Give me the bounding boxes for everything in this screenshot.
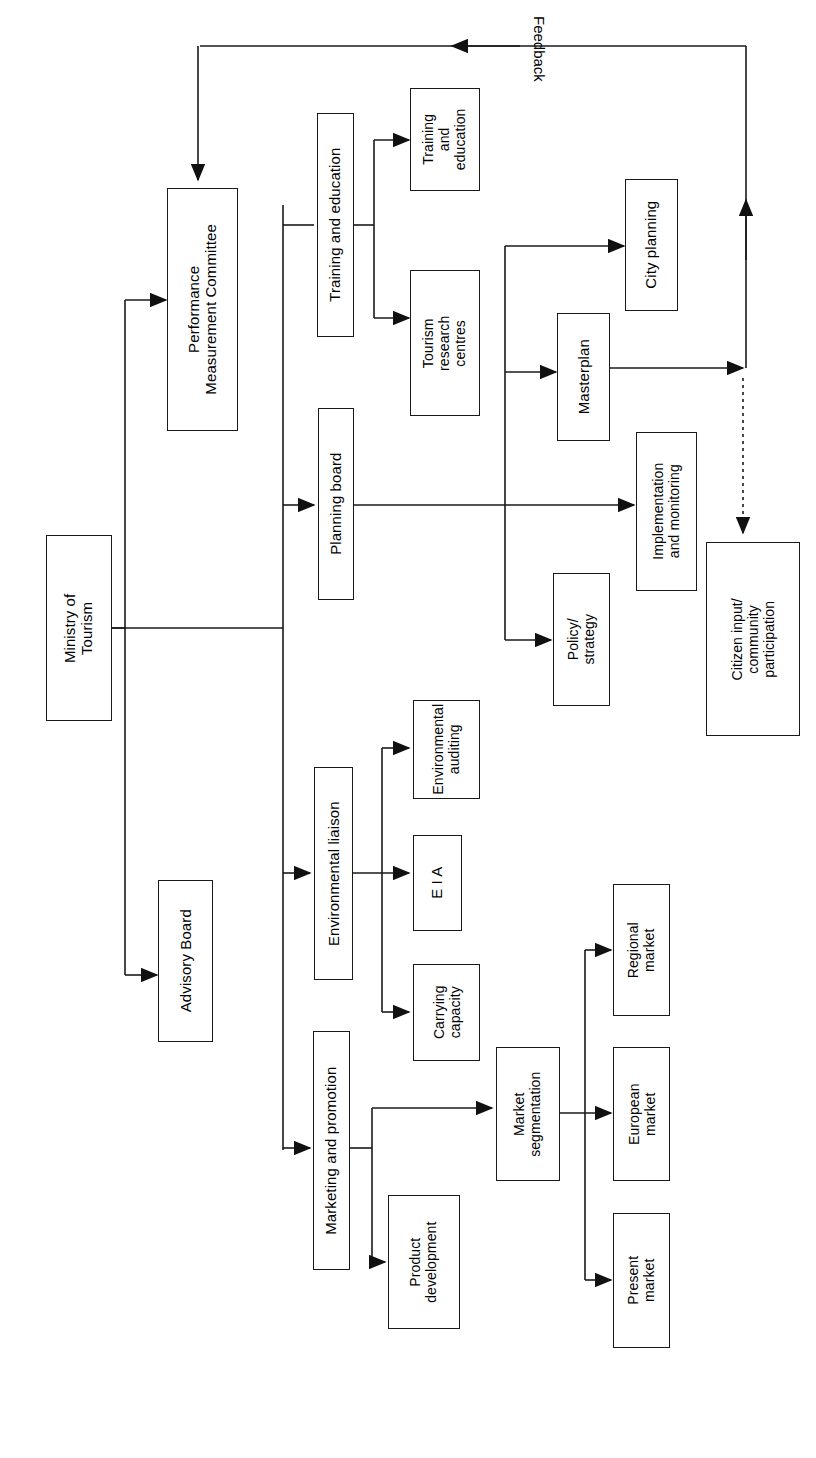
node-market-segmentation[interactable]: Market segmentation xyxy=(496,1047,560,1181)
node-regional-market[interactable]: Regional market xyxy=(613,884,670,1016)
node-label: Tourism research centres xyxy=(421,315,470,370)
node-policy-strategy[interactable]: Policy/ strategy xyxy=(553,573,610,706)
node-marketing-and-promotion[interactable]: Marketing and promotion xyxy=(313,1031,350,1270)
node-product-development[interactable]: Product development xyxy=(388,1195,460,1329)
node-label: Advisory Board xyxy=(177,909,194,1012)
node-label: Masterplan xyxy=(575,339,592,414)
node-eia[interactable]: E I A xyxy=(413,835,462,931)
node-european-market[interactable]: European market xyxy=(613,1047,670,1181)
node-label: Environmental liaison xyxy=(325,801,342,946)
node-training-and-education[interactable]: Training and education xyxy=(410,88,480,191)
node-advisory-board[interactable]: Advisory Board xyxy=(158,880,213,1042)
node-label: Citizen input/ community participation xyxy=(729,598,778,680)
node-city-planning[interactable]: City planning xyxy=(625,179,678,311)
node-label: Environmental auditing xyxy=(430,704,462,795)
node-label: Ministry of Tourism xyxy=(62,593,97,662)
node-training-and-education-unit[interactable]: Training and education xyxy=(317,113,354,337)
node-label: Market segmentation xyxy=(512,1071,544,1156)
node-planning-board[interactable]: Planning board xyxy=(318,408,354,600)
node-environmental-liaison[interactable]: Environmental liaison xyxy=(314,767,353,980)
node-present-market[interactable]: Present market xyxy=(613,1213,670,1348)
node-label: Marketing and promotion xyxy=(323,1066,340,1234)
node-implementation-and-monitoring[interactable]: Implementation and monitoring xyxy=(636,432,697,591)
node-label: Regional market xyxy=(625,922,657,978)
node-ministry-of-tourism[interactable]: Ministry of Tourism xyxy=(46,535,112,721)
node-masterplan[interactable]: Masterplan xyxy=(557,313,610,441)
node-label: Planning board xyxy=(327,453,344,555)
node-label: Implementation and monitoring xyxy=(650,463,682,560)
node-label: Training and education xyxy=(421,109,470,171)
node-label: Carrying capacity xyxy=(430,986,462,1040)
node-tourism-research-centres[interactable]: Tourism research centres xyxy=(410,270,480,416)
node-label: Training and education xyxy=(327,148,344,302)
node-citizen-input[interactable]: Citizen input/ community participation xyxy=(706,542,800,736)
node-label: Policy/ strategy xyxy=(565,614,597,665)
flowchart-canvas: Ministry of Tourism Performance Measurem… xyxy=(0,0,816,1458)
node-label: Performance Measurement Committee xyxy=(185,224,220,395)
node-carrying-capacity[interactable]: Carrying capacity xyxy=(413,964,480,1061)
node-label: City planning xyxy=(643,201,660,289)
node-label: Product development xyxy=(408,1221,440,1302)
feedback-label: Feedback xyxy=(528,16,548,100)
node-label: Present market xyxy=(625,1256,657,1305)
node-performance-measurement-committee[interactable]: Performance Measurement Committee xyxy=(167,188,238,431)
node-environmental-auditing[interactable]: Environmental auditing xyxy=(413,700,480,799)
node-label: E I A xyxy=(429,867,446,899)
node-label: European market xyxy=(625,1083,657,1145)
